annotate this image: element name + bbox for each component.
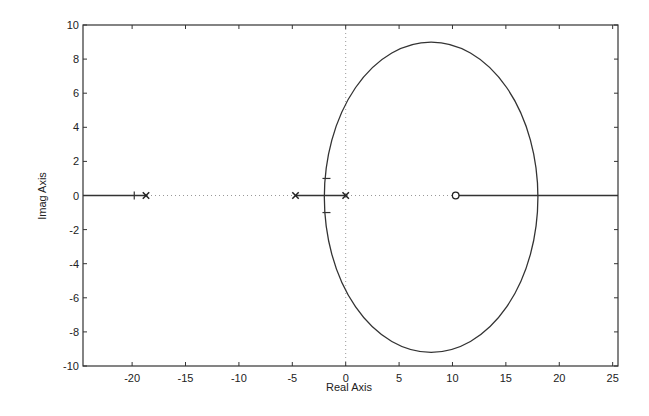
y-tick-label: 6 bbox=[73, 87, 79, 99]
root-locus-chart: -20-15-10-50510152025 -10-8-6-4-20246810… bbox=[0, 0, 649, 416]
x-tick-label: -10 bbox=[231, 372, 247, 384]
zero-marker-icon bbox=[452, 192, 459, 199]
y-tick-label: 0 bbox=[73, 190, 79, 202]
plot-area bbox=[83, 25, 618, 366]
y-tick-label: -4 bbox=[69, 258, 79, 270]
x-tick-label: -15 bbox=[178, 372, 194, 384]
y-tick-label: 2 bbox=[73, 155, 79, 167]
x-tick-label: 5 bbox=[396, 372, 402, 384]
y-tick-label: -6 bbox=[69, 292, 79, 304]
locus-ellipse bbox=[324, 42, 538, 352]
x-tick-label: 15 bbox=[500, 372, 512, 384]
y-tick-label: -2 bbox=[69, 224, 79, 236]
y-tick-label: -10 bbox=[63, 360, 79, 372]
x-axis-ticks: -20-15-10-50510152025 bbox=[124, 25, 619, 384]
x-tick-label: 25 bbox=[607, 372, 619, 384]
x-axis-label: Real Axis bbox=[326, 381, 372, 393]
y-tick-label: 4 bbox=[73, 121, 79, 133]
y-tick-label: 10 bbox=[67, 19, 79, 31]
x-tick-label: 20 bbox=[553, 372, 565, 384]
x-tick-label: 10 bbox=[446, 372, 458, 384]
x-tick-label: -5 bbox=[287, 372, 297, 384]
y-tick-label: -8 bbox=[69, 326, 79, 338]
y-axis-label: Imag Axis bbox=[36, 172, 48, 220]
x-tick-label: -20 bbox=[124, 372, 140, 384]
y-tick-label: 8 bbox=[73, 53, 79, 65]
